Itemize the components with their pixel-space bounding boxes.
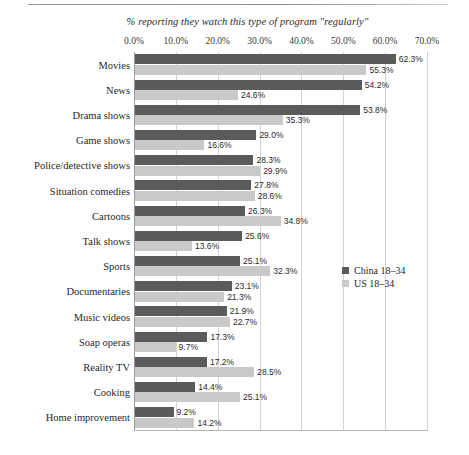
bar-value-label: 29.0% — [259, 130, 283, 140]
legend-label: China 18–34 — [354, 265, 405, 276]
bar-value-label: 24.6% — [241, 90, 265, 100]
chart-title: % reporting they watch this type of prog… — [0, 16, 469, 27]
bar-value-label: 21.9% — [230, 306, 254, 316]
legend-label: US 18–34 — [354, 278, 394, 289]
bar-china[interactable] — [135, 357, 207, 367]
category-label: Reality TV — [2, 362, 130, 373]
category-label: Documentaries — [2, 286, 130, 297]
x-tick-label: 10.0% — [164, 36, 189, 46]
legend-swatch-icon — [342, 280, 349, 287]
bar-value-label: 23.1% — [235, 281, 259, 291]
bar-value-label: 28.3% — [256, 155, 280, 165]
bar-china[interactable] — [135, 206, 245, 216]
plot-area: 62.3%55.3%54.2%24.6%53.8%35.3%29.0%16.6%… — [134, 52, 427, 430]
category-label: Drama shows — [2, 110, 130, 121]
bar-value-label: 26.3% — [248, 206, 272, 216]
bar-china[interactable] — [135, 231, 242, 241]
bar-value-label: 29.9% — [263, 166, 287, 176]
x-tick-label: 30.0% — [247, 36, 272, 46]
page-top-rule — [28, 4, 448, 5]
x-axis-tick-labels: 0.0%10.0%20.0%30.0%40.0%50.0%60.0%70.0% — [0, 36, 469, 50]
x-tick-label: 40.0% — [289, 36, 314, 46]
legend-item[interactable]: US 18–34 — [342, 277, 405, 290]
legend-item[interactable]: China 18–34 — [342, 264, 405, 277]
category-label: Movies — [2, 59, 130, 70]
category-label: Home improvement — [2, 412, 130, 423]
category-label: Situation comedies — [2, 185, 130, 196]
bar-china[interactable] — [135, 382, 195, 392]
bar-china[interactable] — [135, 105, 360, 115]
bar-us[interactable] — [135, 140, 204, 150]
bar-value-label: 9.7% — [179, 342, 198, 352]
bar-value-label: 55.3% — [369, 65, 393, 75]
bar-us[interactable] — [135, 292, 224, 302]
bar-value-label: 14.2% — [197, 418, 221, 428]
bar-us[interactable] — [135, 367, 254, 377]
bar-value-label: 28.5% — [257, 367, 281, 377]
category-label: Game shows — [2, 135, 130, 146]
bar-us[interactable] — [135, 166, 260, 176]
bar-value-label: 17.2% — [210, 357, 234, 367]
bar-value-label: 25.6% — [245, 231, 269, 241]
bar-us[interactable] — [135, 392, 240, 402]
x-tick-label: 60.0% — [373, 36, 398, 46]
bar-us[interactable] — [135, 241, 192, 251]
category-axis-labels: MoviesNewsDrama showsGame showsPolice/de… — [0, 52, 130, 430]
bar-value-label: 62.3% — [399, 54, 423, 64]
gridline — [427, 52, 428, 430]
bar-value-label: 32.3% — [273, 266, 297, 276]
x-axis-line — [134, 430, 428, 431]
category-label: Cooking — [2, 387, 130, 398]
bar-value-label: 53.8% — [363, 105, 387, 115]
category-label: Soap operas — [2, 336, 130, 347]
category-label: Sports — [2, 261, 130, 272]
chart-figure: % reporting they watch this type of prog… — [0, 0, 469, 455]
bar-us[interactable] — [135, 90, 238, 100]
x-tick-label: 70.0% — [415, 36, 440, 46]
bar-china[interactable] — [135, 407, 174, 417]
category-label: News — [2, 84, 130, 95]
category-label: Music videos — [2, 311, 130, 322]
bar-value-label: 27.8% — [254, 180, 278, 190]
bar-value-label: 28.6% — [258, 191, 282, 201]
bar-china[interactable] — [135, 281, 232, 291]
bar-china[interactable] — [135, 306, 227, 316]
bar-china[interactable] — [135, 130, 256, 140]
chart-legend: China 18–34US 18–34 — [342, 264, 405, 290]
category-label: Cartoons — [2, 210, 130, 221]
bar-value-label: 54.2% — [365, 80, 389, 90]
x-tick-label: 0.0% — [124, 36, 144, 46]
bar-us[interactable] — [135, 191, 255, 201]
bar-value-label: 21.3% — [227, 292, 251, 302]
bar-china[interactable] — [135, 256, 240, 266]
bar-us[interactable] — [135, 65, 366, 75]
category-label: Police/detective shows — [2, 160, 130, 171]
bar-us[interactable] — [135, 342, 176, 352]
bar-us[interactable] — [135, 266, 270, 276]
bar-us[interactable] — [135, 216, 281, 226]
bar-us[interactable] — [135, 418, 194, 428]
bar-value-label: 35.3% — [286, 115, 310, 125]
bar-value-label: 25.1% — [243, 256, 267, 266]
x-tick-label: 50.0% — [331, 36, 356, 46]
bar-china[interactable] — [135, 54, 396, 64]
bar-china[interactable] — [135, 180, 251, 190]
category-label: Talk shows — [2, 236, 130, 247]
bar-china[interactable] — [135, 332, 207, 342]
bar-value-label: 17.3% — [210, 332, 234, 342]
bar-value-label: 9.2% — [177, 407, 196, 417]
bar-value-label: 22.7% — [233, 317, 257, 327]
bar-value-label: 16.6% — [207, 140, 231, 150]
bar-china[interactable] — [135, 80, 362, 90]
bar-us[interactable] — [135, 317, 230, 327]
bar-value-label: 25.1% — [243, 392, 267, 402]
bar-value-label: 13.6% — [195, 241, 219, 251]
bar-china[interactable] — [135, 155, 253, 165]
bar-value-label: 14.4% — [198, 382, 222, 392]
bar-us[interactable] — [135, 115, 283, 125]
bar-value-label: 34.8% — [284, 216, 308, 226]
legend-swatch-icon — [342, 267, 349, 274]
x-tick-label: 20.0% — [205, 36, 230, 46]
